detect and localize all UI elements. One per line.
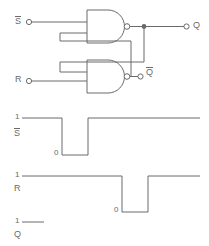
q-level-high-text: 1: [15, 216, 19, 225]
s-bar-level-low-label: 0: [54, 149, 58, 157]
s-bar-trace-label: S: [14, 128, 20, 138]
waveform-panel: [0, 0, 209, 246]
r-bar-level-low-label: 0: [114, 206, 118, 214]
s-bar-level-high-text: 1: [15, 112, 19, 121]
r-bar-level-high-label: 1: [15, 171, 19, 179]
s-bar-level-high-label: 1: [15, 113, 19, 121]
r-bar-trace-label: R: [14, 184, 21, 193]
r-bar-trace-label-text: R: [14, 183, 21, 193]
r-bar-waveform-trace: [22, 176, 200, 212]
s-bar-trace-label-text: S: [14, 128, 20, 138]
q-trace-label-text: Q: [14, 229, 21, 239]
r-bar-level-low-text: 0: [114, 205, 118, 214]
s-bar-level-low-text: 0: [54, 148, 58, 157]
figure-root: S R Q Q 1 S 0 1 R 0 1: [0, 0, 209, 246]
r-bar-level-high-text: 1: [15, 170, 19, 179]
s-bar-waveform-trace: [22, 118, 200, 155]
q-trace-label: Q: [14, 230, 21, 239]
q-level-high-label: 1: [15, 217, 19, 225]
